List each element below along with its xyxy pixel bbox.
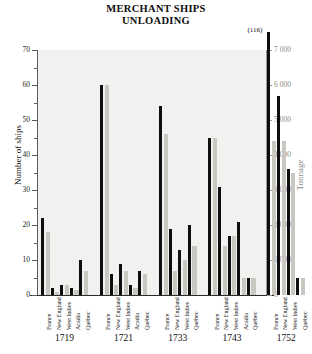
category-label: France [214, 314, 220, 330]
left-tick-20 [32, 225, 37, 226]
category-label: New England [282, 297, 288, 330]
bar-ships [237, 222, 240, 296]
bar-tonnage [74, 290, 78, 295]
bar-value-annotation: (116) [247, 26, 262, 34]
bar-tonnage [143, 274, 147, 295]
bar-tonnage [124, 271, 128, 296]
bar-tonnage [242, 278, 246, 296]
bar-tonnage [183, 260, 187, 295]
category-label: West Indies [184, 302, 190, 330]
category-label: Acadia [134, 313, 140, 330]
bar-tonnage [164, 134, 168, 295]
bar-tonnage [114, 285, 118, 296]
year-label-1719: 1719 [35, 333, 94, 343]
bar-ships [138, 271, 141, 296]
category-label: New England [223, 297, 229, 330]
left-tick-minor [34, 173, 37, 174]
year-label-1721: 1721 [94, 333, 153, 343]
bar-ships [178, 250, 181, 296]
category-label: France [46, 314, 52, 330]
year-label-1743: 1743 [202, 333, 261, 343]
bar-tonnage [232, 236, 236, 296]
bar-series-container [38, 0, 266, 295]
bar-ships [287, 169, 290, 295]
bar-tonnage [55, 292, 59, 296]
category-label: Acadia [243, 313, 249, 330]
category-label: France [105, 314, 111, 330]
bar-ships [70, 288, 73, 295]
bar-tonnage [84, 271, 88, 296]
left-tick-minor [34, 208, 37, 209]
chart-figure: MERCHANT SHIPS UNLOADING 010203040506070… [0, 0, 312, 354]
left-tick-label-50: 50 [23, 116, 31, 124]
left-tick-70 [32, 50, 37, 51]
category-label: Québec [302, 312, 308, 330]
bar-ships [228, 236, 231, 296]
bar-tonnage [251, 278, 255, 296]
bar-ships [247, 278, 250, 296]
bar-ships [100, 85, 103, 295]
left-tick-minor [34, 243, 37, 244]
category-label: West Indies [292, 302, 298, 330]
left-tick-minor [34, 138, 37, 139]
category-label: West Indies [233, 302, 239, 330]
bar-ships [41, 218, 44, 295]
right-axis-title: Tonnage [295, 115, 305, 235]
bar-ships [208, 138, 211, 296]
left-tick-0 [32, 295, 37, 296]
left-tick-label-40: 40 [23, 151, 31, 159]
left-tick-50 [32, 120, 37, 121]
year-label-1752: 1752 [261, 333, 311, 343]
category-label: Québec [144, 312, 150, 330]
left-tick-minor [34, 278, 37, 279]
bar-ships [60, 285, 63, 296]
left-tick-60 [32, 85, 37, 86]
category-label: Québec [252, 312, 258, 330]
bar-tonnage [301, 278, 305, 296]
category-label: West Indies [125, 302, 131, 330]
bar-tonnage [223, 246, 227, 295]
right-tick-label-6: 6 000 [274, 81, 291, 89]
left-tick-label-30: 30 [23, 186, 31, 194]
left-tick-minor [34, 103, 37, 104]
right-tick-0 [267, 295, 272, 296]
bar-tonnage [282, 141, 286, 295]
year-label-1733: 1733 [153, 333, 203, 343]
category-label: France [164, 314, 170, 330]
left-tick-label-20: 20 [23, 221, 31, 229]
left-tick-minor [34, 68, 37, 69]
bar-ships [277, 96, 280, 296]
bar-tonnage [213, 138, 217, 296]
left-tick-label-0: 0 [26, 291, 30, 299]
bar-tonnage [192, 246, 196, 295]
category-label: France [273, 314, 279, 330]
bar-ships [119, 264, 122, 296]
bar-ships [188, 225, 191, 295]
category-label: New England [56, 297, 62, 330]
bar-tonnage [272, 141, 276, 295]
bar-ships [129, 285, 132, 296]
left-tick-10 [32, 260, 37, 261]
category-label: Acadia [75, 313, 81, 330]
bar-tonnage [105, 85, 109, 295]
bar-tonnage [65, 285, 69, 296]
left-axis-title: Number of ships [13, 85, 23, 225]
bar-ships [267, 32, 270, 295]
bar-tonnage [133, 288, 137, 295]
left-tick-40 [32, 155, 37, 156]
left-tick-label-60: 60 [23, 81, 31, 89]
left-tick-label-10: 10 [23, 256, 31, 264]
bar-ships [169, 229, 172, 296]
bar-tonnage [46, 232, 50, 295]
bar-ships [79, 260, 82, 295]
category-label: New England [174, 297, 180, 330]
category-label: New England [115, 297, 121, 330]
category-label: Québec [193, 312, 199, 330]
left-tick-label-70: 70 [23, 46, 31, 54]
year-labels: 17191721173317431752 [38, 333, 266, 349]
category-label: West Indies [66, 302, 72, 330]
bar-ships [159, 106, 162, 295]
left-tick-30 [32, 190, 37, 191]
right-tick-label-7: 7 000 [274, 46, 291, 54]
bar-ships [51, 288, 54, 295]
